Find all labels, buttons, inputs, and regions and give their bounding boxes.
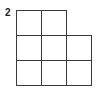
grid-cell: [41, 60, 67, 86]
grid-cell: [66, 35, 92, 61]
grid-cell: [41, 35, 67, 61]
figure-number-label: 2: [5, 8, 11, 18]
grid-cell: [41, 10, 67, 36]
grid-cell: [16, 60, 42, 86]
grid-cell: [16, 35, 42, 61]
grid-cell: [66, 60, 92, 86]
grid-cell: [16, 10, 42, 36]
